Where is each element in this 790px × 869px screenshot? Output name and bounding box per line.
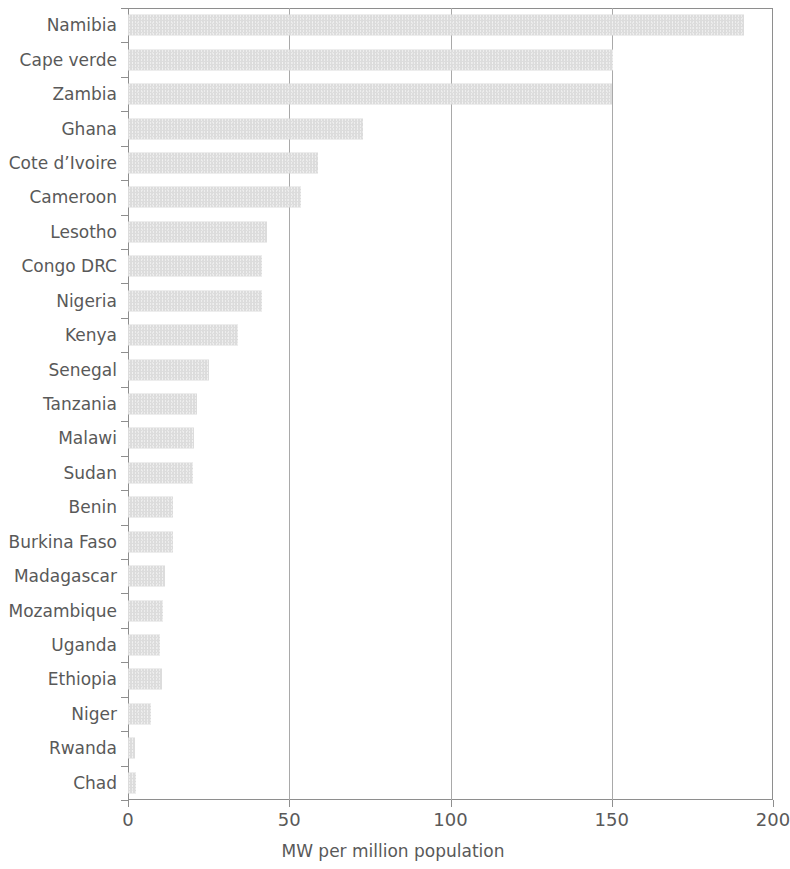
y-axis-tick (121, 490, 128, 491)
bar (128, 497, 173, 518)
bar (128, 531, 173, 552)
y-axis-label: Congo DRC (21, 258, 117, 275)
y-axis-tick (121, 42, 128, 43)
y-axis-label: Kenya (65, 327, 117, 344)
bar-row: Zambia (128, 77, 773, 111)
bar-row: Cote d’Ivoire (128, 146, 773, 180)
x-axis-tick-label: 0 (122, 811, 133, 829)
bar-row: Madagascar (128, 559, 773, 593)
bar (128, 462, 193, 483)
y-axis-label: Benin (69, 499, 117, 516)
y-axis-tick (121, 77, 128, 78)
bar (128, 118, 363, 139)
bar (128, 49, 613, 70)
bar (128, 359, 209, 380)
bar-row: Tanzania (128, 387, 773, 421)
y-axis-tick (121, 559, 128, 560)
y-axis-tick (121, 249, 128, 250)
y-axis-label: Rwanda (49, 740, 117, 757)
bar (128, 221, 267, 242)
y-axis-tick (121, 283, 128, 284)
bar-row: Malawi (128, 421, 773, 455)
y-axis-tick (121, 628, 128, 629)
bar-row: Senegal (128, 352, 773, 386)
bar-row: Benin (128, 490, 773, 524)
bar (128, 428, 194, 449)
y-axis-label: Uganda (51, 637, 117, 654)
bar-row: Mozambique (128, 593, 773, 627)
bar-row: Rwanda (128, 731, 773, 765)
y-axis-label: Nigeria (56, 292, 117, 309)
y-axis-label: Chad (73, 774, 117, 791)
bar-row: Lesotho (128, 215, 773, 249)
y-axis-tick (121, 146, 128, 147)
x-axis-tick (451, 800, 452, 807)
y-axis-label: Niger (71, 705, 117, 722)
bar (128, 393, 197, 414)
bar-row: Ghana (128, 111, 773, 145)
y-axis-tick (121, 387, 128, 388)
x-axis-tick-label: 100 (433, 811, 467, 829)
y-axis-label: Namibia (47, 17, 117, 34)
x-axis-tick (612, 800, 613, 807)
bar (128, 256, 262, 277)
y-axis-tick (121, 8, 128, 9)
y-axis-tick (121, 111, 128, 112)
y-axis-tick (121, 180, 128, 181)
y-axis-tick (121, 766, 128, 767)
bar (128, 738, 135, 759)
bar (128, 15, 744, 36)
y-axis-label: Burkina Faso (9, 533, 117, 550)
y-axis-label: Ethiopia (48, 671, 117, 688)
y-axis-label: Cape verde (20, 51, 117, 68)
y-axis-label: Mozambique (8, 602, 117, 619)
bar-row: Niger (128, 697, 773, 731)
bar (128, 669, 162, 690)
y-axis-tick (121, 456, 128, 457)
y-axis-tick (121, 800, 128, 801)
bar (128, 772, 136, 793)
x-axis-tick-label: 150 (595, 811, 629, 829)
x-axis-title: MW per million population (0, 841, 786, 861)
bar (128, 84, 612, 105)
y-axis-label: Malawi (58, 430, 117, 447)
bar-row: Congo DRC (128, 249, 773, 283)
bar (128, 703, 151, 724)
bar-row: Cameroon (128, 180, 773, 214)
bar (128, 600, 163, 621)
x-axis-tick (773, 800, 774, 807)
bar (128, 325, 238, 346)
bar-row: Kenya (128, 318, 773, 352)
y-axis-label: Tanzania (43, 395, 117, 412)
y-axis-tick (121, 593, 128, 594)
x-axis-tick-label: 50 (278, 811, 301, 829)
bar-row: Cape verde (128, 42, 773, 76)
bar-row: Nigeria (128, 283, 773, 317)
bar-row: Sudan (128, 456, 773, 490)
y-axis-tick (121, 697, 128, 698)
y-axis-label: Cameroon (30, 189, 118, 206)
y-axis-tick (121, 662, 128, 663)
y-axis-tick (121, 731, 128, 732)
x-axis-tick (128, 800, 129, 807)
y-axis-label: Madagascar (14, 568, 117, 585)
bar (128, 152, 318, 173)
plot-area: NamibiaCape verdeZambiaGhanaCote d’Ivoir… (128, 8, 773, 800)
bar-row: Burkina Faso (128, 525, 773, 559)
y-axis-label: Sudan (63, 464, 117, 481)
y-axis-tick (121, 318, 128, 319)
x-axis-tick (289, 800, 290, 807)
x-axis-tick-label: 200 (756, 811, 790, 829)
y-axis-tick (121, 421, 128, 422)
y-axis-tick (121, 525, 128, 526)
y-axis-tick (121, 352, 128, 353)
y-axis-label: Senegal (49, 361, 117, 378)
bar (128, 635, 160, 656)
y-axis-tick (121, 215, 128, 216)
bar-row: Ethiopia (128, 662, 773, 696)
bar-row: Namibia (128, 8, 773, 42)
bar (128, 566, 165, 587)
bar-row: Chad (128, 766, 773, 800)
bar (128, 187, 301, 208)
